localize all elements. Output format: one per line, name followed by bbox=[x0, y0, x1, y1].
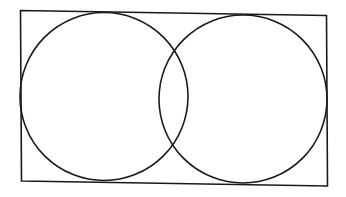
diagram-canvas bbox=[0, 0, 346, 197]
left-circle bbox=[20, 13, 188, 181]
bounding-rectangle bbox=[21, 11, 328, 187]
right-circle bbox=[159, 15, 327, 183]
